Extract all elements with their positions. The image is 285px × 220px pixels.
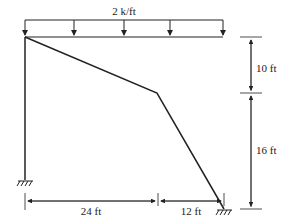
dim-label-lower: 16 ft bbox=[256, 144, 276, 156]
frame-diagram: 2 k/ft 10 ft 16 ft bbox=[0, 0, 285, 220]
dim-label-left: 24 ft bbox=[81, 205, 101, 217]
left-fixed-support-icon bbox=[17, 181, 33, 186]
inclined-member bbox=[25, 37, 224, 209]
right-fixed-support-icon bbox=[216, 210, 232, 215]
dim-label-right: 12 ft bbox=[181, 205, 201, 217]
load-label: 2 k/ft bbox=[112, 5, 136, 17]
dim-label-upper: 10 ft bbox=[256, 62, 276, 74]
distributed-load bbox=[25, 20, 223, 35]
